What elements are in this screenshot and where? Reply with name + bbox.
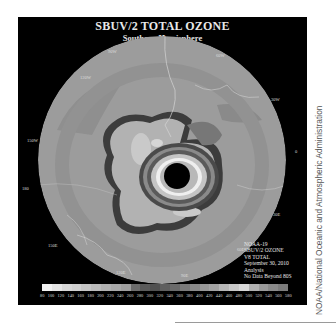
colorbar-swatch — [52, 284, 62, 291]
image-credit: NOAA/National Oceanic and Atmospheric Ad… — [314, 106, 324, 315]
colorbar-swatch — [249, 284, 259, 291]
colorbar-tick-label: 420 — [206, 293, 213, 298]
info-date: September 30, 2010 — [244, 260, 292, 266]
colorbar-swatch — [81, 284, 91, 291]
lon-label-60w: 60W — [216, 53, 225, 58]
colorbar — [42, 284, 288, 291]
colorbar-swatch — [111, 284, 121, 291]
colorbar-tick-label: 440 — [216, 293, 223, 298]
colorbar-swatch — [259, 284, 269, 291]
colorbar-swatch — [62, 284, 72, 291]
colorbar-tick-label: 460 — [226, 293, 233, 298]
colorbar-swatch — [160, 284, 170, 291]
lon-label-120e: 120E — [116, 270, 126, 275]
colorbar-swatch — [229, 284, 239, 291]
colorbar-swatch — [121, 284, 131, 291]
colorbar-tick-label: 400 — [196, 293, 203, 298]
colorbar-swatch — [42, 284, 52, 291]
colorbar-swatch — [150, 284, 160, 291]
colorbar-tick-label: 320 — [156, 293, 163, 298]
colorbar-tick-label: 180 — [87, 293, 94, 298]
colorbar-tick-label: 220 — [107, 293, 114, 298]
colorbar-swatch — [131, 284, 141, 291]
colorbar-tick-label: 300 — [147, 293, 154, 298]
colorbar-tick-label: 360 — [176, 293, 183, 298]
colorbar-swatch — [219, 284, 229, 291]
colorbar-tick-label: 240 — [117, 293, 124, 298]
dataset-info: NOAA-19 SBUV/2 OZONE V8 TOTAL September … — [244, 241, 292, 279]
colorbar-swatch — [190, 284, 200, 291]
colorbar-tick-label: 340 — [166, 293, 173, 298]
colorbar-tick-label: 500 — [246, 293, 253, 298]
colorbar-tick-label: 380 — [186, 293, 193, 298]
colorbar-tick-label: 80 — [40, 293, 44, 298]
colorbar-swatch — [91, 284, 101, 291]
colorbar-swatch — [239, 284, 249, 291]
colorbar-swatch — [209, 284, 219, 291]
map-title: SBUV/2 TOTAL OZONE — [18, 19, 307, 34]
colorbar-tick-label: 160 — [77, 293, 84, 298]
lon-label-90e: 90E — [181, 273, 188, 278]
colorbar-swatch — [268, 284, 278, 291]
colorbar-swatch — [170, 284, 180, 291]
lon-label-120w: 120W — [80, 75, 91, 80]
colorbar-tick-label: 120 — [58, 293, 65, 298]
colorbar-tick-label: 100 — [48, 293, 55, 298]
colorbar-tick-label: 520 — [255, 293, 262, 298]
colorbar-swatch — [101, 284, 111, 291]
colorbar-ticks: 8010012014016018020022024026028030032034… — [40, 293, 292, 298]
colorbar-tick-label: 260 — [127, 293, 134, 298]
colorbar-swatch — [72, 284, 82, 291]
colorbar-tick-label: 280 — [137, 293, 144, 298]
lon-label-180: 180 — [22, 186, 29, 191]
colorbar-tick-label: 480 — [236, 293, 243, 298]
colorbar-tick-label: 200 — [97, 293, 104, 298]
colorbar-tick-label: 560 — [275, 293, 282, 298]
colorbar-swatch — [278, 284, 288, 291]
colorbar-tick-label: 540 — [265, 293, 272, 298]
colorbar-tick-label: 140 — [67, 293, 74, 298]
lon-label-0: 0 — [295, 149, 297, 154]
ozone-map-figure: SBUV/2 TOTAL OZONE Southern Hemisphere — [18, 17, 307, 305]
colorbar-tick-label: 580 — [285, 293, 292, 298]
colorbar-swatch — [180, 284, 190, 291]
divider-line — [175, 322, 336, 323]
colorbar-swatch — [140, 284, 150, 291]
lon-label-30e: 30E — [273, 212, 280, 217]
lon-label-90w: 90W — [108, 49, 117, 54]
info-coverage-note: No Data Beyond 80S — [244, 273, 292, 279]
colorbar-swatch — [200, 284, 210, 291]
lon-label-30w: 30W — [271, 97, 280, 102]
lon-label-150w: 150W — [27, 138, 38, 143]
lon-label-150e: 150E — [48, 243, 58, 248]
